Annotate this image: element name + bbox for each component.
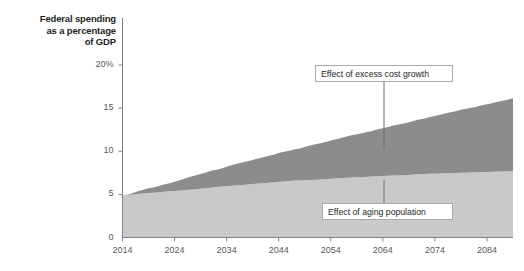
x-tick-label-2054: 2054 [311, 245, 351, 255]
y-tick-label-0: 0 [74, 232, 114, 242]
axis-title-line-1: Federal spending [8, 13, 116, 25]
x-tick-label-2064: 2064 [363, 245, 403, 255]
axis-title-line-3: of GDP [8, 36, 116, 48]
axis-title-line-2: as a percentage [8, 25, 116, 37]
x-tick-label-2074: 2074 [415, 245, 455, 255]
y-tick-label-5: 5 [74, 188, 114, 198]
annotation-label: Effect of aging population [328, 207, 426, 217]
annotation-label: Effect of excess cost growth [321, 69, 429, 79]
annotation-aging-population: Effect of aging population [322, 203, 453, 220]
chart-container: Federal spending as a percentage of GDP … [0, 0, 524, 271]
y-tick-label-15: 15 [74, 102, 114, 112]
x-tick-label-2044: 2044 [259, 245, 299, 255]
x-tick-label-2034: 2034 [207, 245, 247, 255]
x-tick-label-2024: 2024 [155, 245, 195, 255]
y-tick-label-20%: 20% [74, 59, 114, 69]
x-tick-label-2014: 2014 [103, 245, 143, 255]
chart-axis-title: Federal spending as a percentage of GDP [8, 13, 116, 48]
annotation-excess-cost-growth: Effect of excess cost growth [315, 65, 453, 82]
x-tick-label-2084: 2084 [467, 245, 507, 255]
y-tick-label-10: 10 [74, 145, 114, 155]
